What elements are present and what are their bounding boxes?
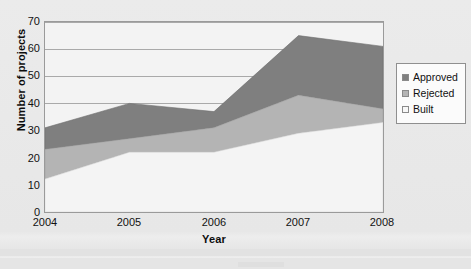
scan-band-upper xyxy=(0,249,471,256)
y-tick-20: 20 xyxy=(14,153,40,164)
x-tick-2008: 2008 xyxy=(357,216,407,228)
plot-area xyxy=(44,21,384,213)
stacked-area-chart: 70 60 50 40 30 20 10 0 Number of project… xyxy=(0,0,471,269)
legend-label-built: Built xyxy=(413,104,433,115)
legend-label-approved: Approved xyxy=(413,72,458,83)
x-tick-2004: 2004 xyxy=(20,216,70,228)
legend-swatch-built-icon xyxy=(402,106,409,113)
legend-item-built: Built xyxy=(402,102,461,117)
chart-figure: 70 60 50 40 30 20 10 0 Number of project… xyxy=(0,0,471,269)
x-tick-2005: 2005 xyxy=(104,216,154,228)
x-axis-ticks: 2004 2005 2006 2007 2008 xyxy=(44,216,384,230)
legend-swatch-approved-icon xyxy=(402,74,409,81)
legend-item-rejected: Rejected xyxy=(402,86,461,101)
plot-svg xyxy=(45,22,383,212)
legend-label-rejected: Rejected xyxy=(413,88,454,99)
x-axis-title: Year xyxy=(44,233,384,245)
scan-band-lower xyxy=(0,258,471,269)
legend-item-approved: Approved xyxy=(402,70,461,85)
scan-smudge xyxy=(238,262,284,267)
y-axis-title: Number of projects xyxy=(15,15,27,145)
x-tick-2007: 2007 xyxy=(273,216,323,228)
y-tick-10: 10 xyxy=(14,180,40,191)
x-tick-2006: 2006 xyxy=(189,216,239,228)
chart-legend: Approved Rejected Built xyxy=(396,63,466,124)
legend-swatch-rejected-icon xyxy=(402,90,409,97)
